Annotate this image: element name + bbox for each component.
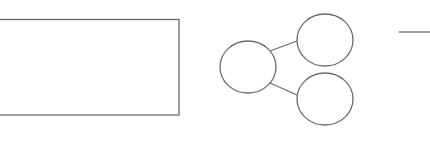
edge-left-to-top-right (270, 41, 297, 51)
node-top-right-circle (297, 14, 353, 66)
node-bottom-right-circle (297, 73, 353, 125)
edge-left-to-bottom-right (270, 83, 297, 95)
diagram-canvas (0, 0, 430, 143)
rectangle-box (0, 20, 179, 116)
node-left-circle (220, 41, 276, 93)
